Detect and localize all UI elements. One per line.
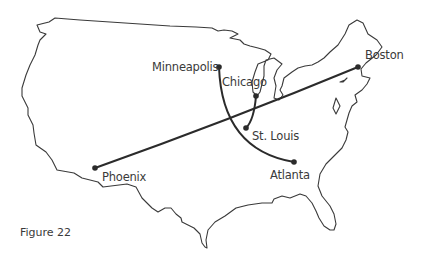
city-dot-st-louis — [243, 125, 249, 131]
city-dot-chicago — [253, 93, 259, 99]
city-label-chicago: Chicago — [222, 75, 267, 89]
city-label-phoenix: Phoenix — [102, 170, 146, 184]
figure-caption: Figure 22 — [20, 226, 71, 239]
city-label-atlanta: Atlanta — [270, 168, 310, 182]
city-label-boston: Boston — [365, 48, 404, 62]
us-map — [0, 0, 425, 254]
us-outline — [22, 18, 382, 248]
city-dot-phoenix — [92, 165, 98, 171]
chesapeake-outline — [333, 78, 347, 114]
city-dot-atlanta — [291, 159, 297, 165]
city-label-st-louis: St. Louis — [252, 129, 299, 143]
city-label-minneapolis: Minneapolis — [152, 60, 218, 74]
city-dot-boston — [355, 64, 361, 70]
